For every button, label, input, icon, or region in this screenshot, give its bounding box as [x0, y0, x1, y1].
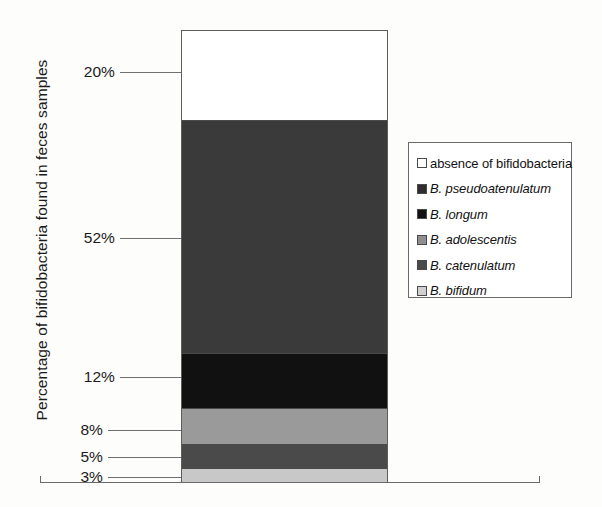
legend-item-label: B. adolescentis: [430, 232, 517, 247]
legend-item-label: absence of bifidobacteria: [430, 156, 572, 171]
bar-segment: [182, 120, 387, 353]
legend-item[interactable]: B. pseudoatenulatum: [417, 177, 565, 201]
x-axis-line: [40, 482, 540, 483]
legend-item-label: B. pseudoatenulatum: [430, 181, 551, 196]
y-axis-tick-label: 12%: [64, 368, 115, 386]
legend-item[interactable]: absence of bifidobacteria: [417, 151, 565, 175]
bar-segment: [182, 408, 387, 445]
legend-item[interactable]: B. adolescentis: [417, 228, 565, 252]
legend-item[interactable]: B. bifidum: [417, 279, 565, 303]
y-axis-tick-label: 5%: [64, 448, 103, 466]
x-axis-tick-right: [539, 476, 540, 483]
legend-item[interactable]: B. catenulatum: [417, 253, 565, 277]
y-axis-tick-label: 20%: [64, 63, 115, 81]
x-axis-tick-left: [40, 476, 41, 483]
legend-swatch-icon: [417, 184, 427, 194]
bar-segment: [182, 353, 387, 408]
y-axis-tick-label: 52%: [64, 229, 115, 247]
legend-item-label: B. longum: [430, 207, 488, 222]
y-axis-tick-label: 8%: [64, 421, 103, 439]
stacked-bar: [181, 30, 388, 482]
legend-swatch-icon: [417, 235, 427, 245]
bar-segment: [182, 468, 387, 482]
stacked-column-chart: Percentage of bifidobacteria found in fe…: [0, 0, 602, 507]
y-axis-tick-label: 3%: [64, 468, 103, 486]
legend-swatch-icon: [417, 209, 427, 219]
legend-item[interactable]: B. longum: [417, 202, 565, 226]
legend-item-label: B. bifidum: [430, 283, 487, 298]
legend-swatch-icon: [417, 158, 427, 168]
y-axis-title: Percentage of bifidobacteria found in fe…: [29, 0, 55, 480]
bar-segment: [182, 31, 387, 120]
legend-swatch-icon: [417, 286, 427, 296]
legend-item-label: B. catenulatum: [430, 258, 515, 273]
bar-segment: [182, 444, 387, 467]
legend: absence of bifidobacteriaB. pseudoatenul…: [408, 142, 572, 298]
legend-swatch-icon: [417, 260, 427, 270]
